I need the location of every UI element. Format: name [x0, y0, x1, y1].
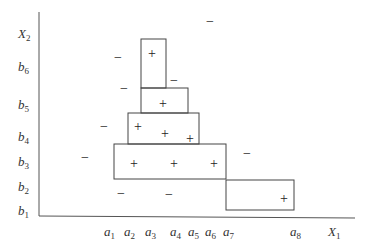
plus-sign: +: [134, 119, 142, 134]
minus-sign: −: [170, 73, 178, 88]
minus-sign: −: [243, 146, 251, 161]
y-tick-label: b6: [18, 59, 30, 76]
minus-sign: −: [117, 186, 125, 201]
plus-sign: +: [159, 96, 167, 111]
minus-sign: −: [120, 81, 128, 96]
plus-sign: +: [130, 156, 138, 171]
y-tick-label: b3: [18, 154, 30, 171]
axis-labels: a1a2a3a4a5a6a7a8b6b5b4b3b2b1X1X2: [17, 26, 340, 241]
y-axis-label: X2: [17, 26, 30, 43]
y-tick-label: b4: [18, 129, 30, 146]
minus-sign: −: [114, 50, 122, 65]
x-tick-label: a6: [205, 224, 217, 241]
y-tick-label: b2: [18, 179, 29, 196]
x-axis: [39, 216, 355, 218]
x-tick-label: a4: [170, 224, 182, 241]
minus-sign: −: [206, 14, 214, 29]
minus-sign: −: [100, 119, 108, 134]
y-tick-label: b1: [18, 203, 29, 220]
plus-sign: +: [210, 156, 218, 171]
x-tick-label: a3: [145, 224, 157, 241]
x-tick-label: a7: [223, 224, 235, 241]
minus-sign: −: [165, 187, 173, 202]
plus-sign: +: [280, 191, 288, 206]
x-axis-label: X1: [327, 224, 340, 241]
x-tick-label: a1: [104, 224, 115, 241]
plus-sign: +: [161, 126, 169, 141]
plus-sign: +: [148, 46, 156, 61]
decision-region-diagram: +++++++++−−−−−−−−− a1a2a3a4a5a6a7a8b6b5b…: [0, 0, 372, 250]
plus-sign: +: [170, 156, 178, 171]
plus-sign: +: [186, 131, 194, 146]
x-tick-label: a5: [188, 224, 200, 241]
x-tick-label: a8: [290, 224, 302, 241]
y-tick-label: b5: [18, 97, 30, 114]
class-signs: +++++++++−−−−−−−−−: [81, 14, 288, 206]
minus-sign: −: [81, 150, 89, 165]
x-tick-label: a2: [124, 224, 135, 241]
